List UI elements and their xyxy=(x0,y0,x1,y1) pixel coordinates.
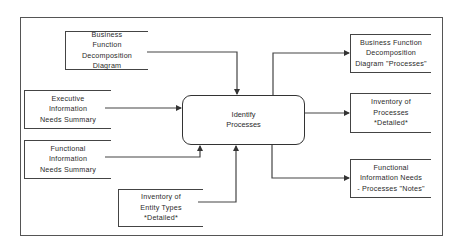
label-line: Executive xyxy=(40,94,96,105)
label-line: Function xyxy=(82,40,132,51)
label-line: Functional xyxy=(40,144,96,155)
label-line: Inventory of xyxy=(140,192,181,203)
label-line: Business xyxy=(82,30,132,41)
label-line: *Detailed* xyxy=(140,213,181,224)
label-line: Decomposition xyxy=(355,48,427,59)
label-line: Diagram xyxy=(82,61,132,72)
label-line: *Detailed* xyxy=(371,118,411,129)
arrow-process-to-finp xyxy=(272,145,349,178)
label-line: Needs Summary xyxy=(40,165,96,176)
label-line: - Processes "Notes" xyxy=(357,184,425,195)
arrow-iet-to-process xyxy=(198,146,236,202)
label-line: Diagram "Processes" xyxy=(355,59,427,70)
process-label-line: Identify xyxy=(232,110,256,121)
process-identify-processes: Identify Processes xyxy=(182,95,305,145)
label-line: Entity Types xyxy=(140,203,181,214)
arrow-fins-to-process xyxy=(105,146,200,157)
input-inventory-of-entity-types: Inventory of Entity Types *Detailed* xyxy=(118,189,203,227)
input-functional-information-needs-summary: Functional Information Needs Summary xyxy=(24,140,111,179)
arrow-process-to-bfdd-p xyxy=(273,53,349,95)
process-label-line: Processes xyxy=(226,120,261,131)
output-functional-information-needs-processes: Functional Information Needs - Processes… xyxy=(350,159,431,198)
label-line: Decomposition xyxy=(82,51,132,62)
arrow-bfdd-to-process xyxy=(147,52,237,94)
label-line: Processes xyxy=(371,108,411,119)
input-executive-information-needs-summary: Executive Information Needs Summary xyxy=(24,90,111,129)
output-inventory-of-processes: Inventory of Processes *Detailed* xyxy=(350,93,431,133)
label-line: Information xyxy=(40,154,96,165)
label-line: Business Function xyxy=(355,38,427,49)
input-business-function-decomposition-diagram: Business Function Decomposition Diagram xyxy=(65,31,148,70)
label-line: Inventory of xyxy=(371,97,411,108)
output-business-function-decomposition-diagram-processes: Business Function Decomposition Diagram … xyxy=(350,34,431,73)
label-line: Needs Summary xyxy=(40,115,96,126)
label-line: Functional xyxy=(357,163,425,174)
label-line: Information Needs xyxy=(357,173,425,184)
label-line: Information xyxy=(40,104,96,115)
